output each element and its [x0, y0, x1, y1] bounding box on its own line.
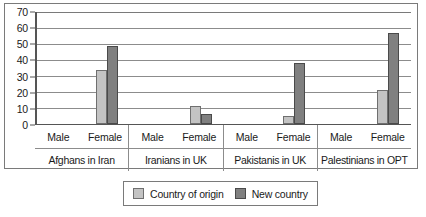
y-tick-label-70: 70: [17, 7, 28, 18]
bar-cluster-pakistanis-female: [271, 12, 318, 124]
bar-group-pakistanis-in-uk: [224, 12, 318, 124]
bar-cluster-palestinians-female: [364, 12, 411, 124]
bar-cluster-iranians-female: [177, 12, 224, 124]
group-label-iranians-in-uk: Iranians in UK: [129, 148, 222, 171]
plot-area: [35, 12, 411, 125]
category-group-afghans-in-iran: Male Female Afghans in Iran: [35, 125, 128, 171]
y-tick-label-40: 40: [17, 55, 28, 66]
y-tick-label-0: 0: [22, 120, 28, 131]
bars-layer: [37, 12, 411, 124]
chart-frame: 70 60 50 40 30 20 10 0: [4, 3, 418, 169]
y-axis: 70 60 50 40 30 20 10 0: [5, 12, 35, 125]
bar-newcountry-iranians-female[interactable]: [201, 114, 212, 124]
y-tick-label-20: 20: [17, 87, 28, 98]
y-tick-label-60: 60: [17, 23, 28, 34]
bar-origin-iranians-female[interactable]: [190, 106, 201, 124]
bar-newcountry-palestinians-female[interactable]: [388, 33, 399, 124]
bar-cluster-palestinians-male: [318, 12, 365, 124]
category-axis: Male Female Afghans in Iran Male Female …: [35, 125, 411, 171]
category-label-afghans-female: Female: [82, 125, 129, 148]
category-label-pakistanis-female: Female: [270, 125, 317, 148]
category-label-iranians-male: Male: [129, 125, 176, 148]
category-group-iranians-in-uk: Male Female Iranians in UK: [128, 125, 222, 171]
category-label-palestinians-female: Female: [364, 125, 411, 148]
legend-item-country-of-origin[interactable]: Country of origin: [133, 188, 224, 200]
bar-origin-pakistanis-female[interactable]: [283, 116, 294, 124]
bar-group-afghans-in-iran: [37, 12, 131, 124]
bar-newcountry-pakistanis-female[interactable]: [294, 63, 305, 124]
category-label-afghans-male: Male: [35, 125, 82, 148]
group-label-afghans-in-iran: Afghans in Iran: [35, 148, 128, 171]
bar-chart-figure: 70 60 50 40 30 20 10 0: [0, 0, 426, 217]
bar-origin-palestinians-female[interactable]: [377, 90, 388, 124]
category-label-iranians-female: Female: [176, 125, 223, 148]
bar-cluster-afghans-male: [37, 12, 84, 124]
category-group-palestinians-in-opt: Male Female Palestinians in OPT: [317, 125, 411, 171]
bar-cluster-afghans-female: [84, 12, 131, 124]
y-tick-label-30: 30: [17, 71, 28, 82]
chart-legend: Country of origin New country: [123, 181, 318, 206]
plot-wrap: [35, 12, 411, 125]
legend-swatch-country-of-origin: [133, 188, 144, 199]
legend-label-new-country: New country: [252, 188, 308, 200]
legend-item-new-country[interactable]: New country: [235, 188, 308, 200]
bar-newcountry-afghans-female[interactable]: [107, 46, 118, 124]
y-tick-label-50: 50: [17, 39, 28, 50]
category-label-palestinians-male: Male: [318, 125, 365, 148]
bar-group-palestinians-in-opt: [318, 12, 412, 124]
bar-cluster-iranians-male: [131, 12, 178, 124]
category-label-pakistanis-male: Male: [224, 125, 271, 148]
group-label-pakistanis-in-uk: Pakistanis in UK: [224, 148, 317, 171]
legend-label-country-of-origin: Country of origin: [150, 188, 224, 200]
legend-swatch-new-country: [235, 188, 246, 199]
bar-origin-afghans-female[interactable]: [96, 70, 107, 124]
bar-group-iranians-in-uk: [131, 12, 225, 124]
y-tick-label-10: 10: [17, 104, 28, 115]
category-group-pakistanis-in-uk: Male Female Pakistanis in UK: [223, 125, 317, 171]
group-label-palestinians-in-opt: Palestinians in OPT: [318, 148, 411, 171]
bar-cluster-pakistanis-male: [224, 12, 271, 124]
